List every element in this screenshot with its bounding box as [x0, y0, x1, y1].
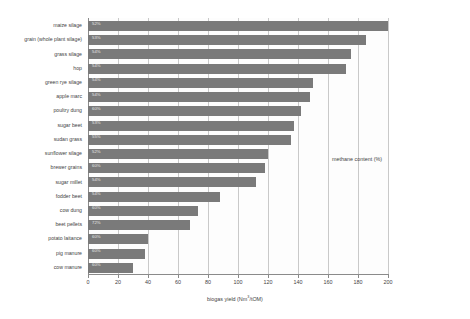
methane-content-label: 53%: [92, 120, 101, 125]
x-axis-title-prefix: biogas yield (Nm: [207, 296, 247, 302]
category-label: cow manure: [0, 264, 82, 270]
bars-layer: 52%53%54%54%54%54%60%53%55%52%60%54%54%6…: [88, 18, 388, 274]
category-label: brewer grains: [0, 164, 82, 170]
methane-content-label: 54%: [92, 191, 101, 196]
bar: [88, 121, 294, 131]
category-label: cow dung: [0, 207, 82, 213]
x-tick-mark: [298, 274, 299, 278]
x-tick-mark: [208, 274, 209, 278]
methane-content-label: 60%: [92, 205, 101, 210]
category-label: sugar millet: [0, 179, 82, 185]
methane-content-label: 72%: [92, 220, 101, 225]
x-tick-mark: [388, 274, 389, 278]
category-label: pig manure: [0, 250, 82, 256]
x-tick-mark: [148, 274, 149, 278]
category-label: beet pellets: [0, 221, 82, 227]
biogas-yield-bar-chart: maize silagegrain (whole plant silage)gr…: [0, 0, 470, 319]
methane-content-label: 52%: [92, 149, 101, 154]
category-label: fodder beet: [0, 193, 82, 199]
x-tick-label: 200: [373, 279, 403, 286]
bar: [88, 220, 190, 230]
category-label: sunflower silage: [0, 150, 82, 156]
bar: [88, 106, 301, 116]
x-axis-title-suffix: /tOM): [249, 296, 262, 302]
x-axis-title: biogas yield (Nm3/tOM): [0, 293, 470, 303]
bar: [88, 177, 256, 187]
category-label: grain (whole plant silage): [0, 36, 82, 42]
x-tick-mark: [238, 274, 239, 278]
x-tick-mark: [358, 274, 359, 278]
x-tick-label: 180: [343, 279, 373, 286]
bar: [88, 64, 346, 74]
methane-content-label: 54%: [92, 49, 101, 54]
methane-content-label: 60%: [92, 262, 101, 267]
bar: [88, 35, 366, 45]
x-tick-label: 120: [253, 279, 283, 286]
methane-content-label: 60%: [92, 248, 101, 253]
category-label: sugar beet: [0, 122, 82, 128]
bar: [88, 21, 388, 31]
category-label: hop: [0, 65, 82, 71]
bar: [88, 206, 198, 216]
x-tick-label: 80: [193, 279, 223, 286]
methane-content-label: 53%: [92, 35, 101, 40]
category-axis-labels: maize silagegrain (whole plant silage)gr…: [0, 18, 86, 274]
bar: [88, 163, 265, 173]
x-tick-label: 100: [223, 279, 253, 286]
category-label: maize silage: [0, 22, 82, 28]
x-tick-label: 40: [133, 279, 163, 286]
x-tick-label: 0: [73, 279, 103, 286]
x-tick-mark: [268, 274, 269, 278]
bar: [88, 149, 268, 159]
x-tick-mark: [328, 274, 329, 278]
x-tick-label: 140: [283, 279, 313, 286]
category-label: sudan grass: [0, 136, 82, 142]
x-tick-label: 160: [313, 279, 343, 286]
bar: [88, 92, 310, 102]
category-label: grass silage: [0, 51, 82, 57]
methane-content-label: 54%: [92, 177, 101, 182]
bar: [88, 78, 313, 88]
methane-content-label: 60%: [92, 234, 101, 239]
category-label: green rye silage: [0, 79, 82, 85]
methane-content-annotation: methane content (%): [332, 155, 382, 163]
methane-content-label: 54%: [92, 63, 101, 68]
methane-content-label: 54%: [92, 77, 101, 82]
x-tick-mark: [88, 274, 89, 278]
methane-content-label: 60%: [92, 163, 101, 168]
x-tick-mark: [178, 274, 179, 278]
methane-content-label: 60%: [92, 106, 101, 111]
bar: [88, 135, 291, 145]
methane-content-label: 54%: [92, 92, 101, 97]
methane-content-label: 55%: [92, 134, 101, 139]
x-tick-label: 20: [103, 279, 133, 286]
x-tick-mark: [118, 274, 119, 278]
methane-content-label: 52%: [92, 21, 101, 26]
x-tick-label: 60: [163, 279, 193, 286]
bar: [88, 49, 351, 59]
category-label: potato laitance: [0, 235, 82, 241]
bar: [88, 192, 220, 202]
category-label: poultry dung: [0, 107, 82, 113]
category-label: apple marc: [0, 93, 82, 99]
